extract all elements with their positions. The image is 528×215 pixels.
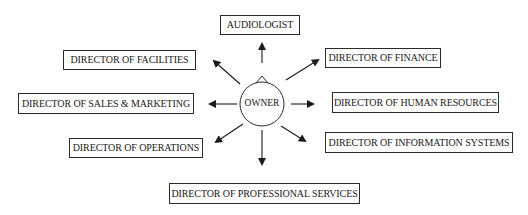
node-director-of-information-systems: DIRECTOR OF INFORMATION SYSTEMS xyxy=(325,132,513,153)
org-chart-diagram: OWNER AUDIOLOGIST DIRECTOR OF FACILITIES… xyxy=(0,0,528,215)
node-director-of-professional-services: DIRECTOR OF PROFESSIONAL SERVICES xyxy=(169,183,360,204)
node-director-of-operations: DIRECTOR OF OPERATIONS xyxy=(69,138,203,158)
arrow-to-infosys xyxy=(281,126,305,141)
owner-label: OWNER xyxy=(240,98,284,108)
arrow-to-operations xyxy=(216,124,243,142)
node-director-of-finance: DIRECTOR OF FINANCE xyxy=(325,48,441,68)
arrow-to-finance xyxy=(286,60,318,80)
node-director-of-sales-marketing: DIRECTOR OF SALES & MARKETING xyxy=(18,93,194,114)
node-audiologist: AUDIOLOGIST xyxy=(220,15,300,35)
node-director-of-human-resources: DIRECTOR OF HUMAN RESOURCES xyxy=(332,92,499,113)
arrow-to-facilities xyxy=(214,61,240,84)
node-director-of-facilities: DIRECTOR OF FACILITIES xyxy=(63,50,196,70)
